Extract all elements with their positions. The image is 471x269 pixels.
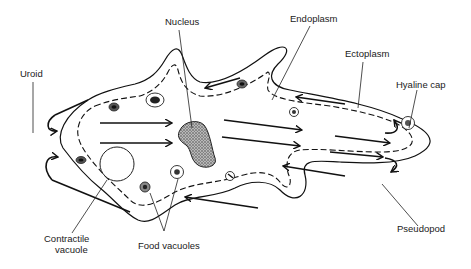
label-uroid: Uroid — [20, 68, 43, 79]
label-contractile-vacuole-line2: vacuole — [55, 244, 88, 255]
cell-outline — [60, 47, 430, 221]
label-hyaline-cap: Hyaline cap — [396, 79, 446, 90]
label-endoplasm: Endoplasm — [290, 13, 338, 24]
label-food-vacuoles: Food vacuoles — [138, 240, 200, 251]
label-nucleus: Nucleus — [165, 16, 200, 27]
amoeba-diagram: Nucleus Endoplasm Ectoplasm Uroid Hyalin… — [0, 0, 471, 269]
label-ectoplasm: Ectoplasm — [345, 48, 389, 59]
label-contractile-vacuole-line1: Contractile — [44, 233, 89, 244]
nucleus — [178, 122, 215, 168]
contractile-vacuole — [100, 147, 134, 181]
label-pseudopod: Pseudopod — [397, 223, 445, 234]
